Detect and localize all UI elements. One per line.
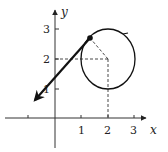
y-axis-label: y [60, 5, 68, 19]
x-tick-3: 3 [130, 124, 137, 137]
tangent-vector-arrow [35, 38, 90, 100]
diagram-canvas: 1 2 3 x 3 2 1 y [0, 0, 168, 152]
x-axis: 1 2 3 x [5, 115, 157, 137]
direction-mark [123, 33, 128, 34]
x-tick-1: 1 [78, 124, 85, 137]
point-on-circle [87, 35, 93, 41]
y-tick-2: 2 [43, 53, 50, 66]
x-tick-2: 2 [104, 124, 111, 137]
y-tick-3: 3 [43, 23, 50, 36]
x-axis-label: x [150, 123, 157, 137]
